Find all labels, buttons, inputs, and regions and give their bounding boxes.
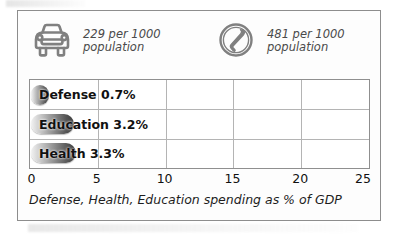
scan-artifact-top [6,0,86,7]
scan-artifact-bottom [28,224,358,232]
car-icon [29,18,75,64]
stat-telephones-text: 481 per 1000 population [267,28,345,55]
stat-cars: 229 per 1000 population [29,18,161,64]
bar-label-defense: Defense 0.7% [39,87,136,102]
chart-caption: Defense, Health, Education spending as %… [29,192,342,207]
telephone-icon [213,18,259,64]
stat-telephones-value: 481 per 1000 [267,28,345,42]
stat-cars-unit: population [83,41,161,55]
x-tick-label: 0 [27,171,35,186]
bar-chart: Defense 0.7%Education 3.2%Health 3.3% [29,79,370,169]
x-tick-label: 20 [292,171,308,186]
infographic-card: 229 per 1000 population 481 per 1000 pop… [17,10,381,221]
stat-telephones: 481 per 1000 population [213,18,345,64]
x-axis: 0510152025 [29,171,370,189]
bar-row: Health 3.3% [30,138,369,168]
bar-label-education: Education 3.2% [39,117,148,132]
statistics-row: 229 per 1000 population 481 per 1000 pop… [18,18,380,74]
bar-label-health: Health 3.3% [39,146,125,161]
plot-area: Defense 0.7%Education 3.2%Health 3.3% [29,79,370,169]
x-tick-label: 5 [93,171,101,186]
stat-telephones-unit: population [267,41,345,55]
bar-row: Defense 0.7% [30,80,369,110]
x-tick-label: 25 [355,171,371,186]
bar-row: Education 3.2% [30,109,369,139]
stat-cars-value: 229 per 1000 [83,28,161,42]
x-tick-label: 10 [157,171,173,186]
x-tick-label: 15 [224,171,240,186]
stat-cars-text: 229 per 1000 population [83,28,161,55]
